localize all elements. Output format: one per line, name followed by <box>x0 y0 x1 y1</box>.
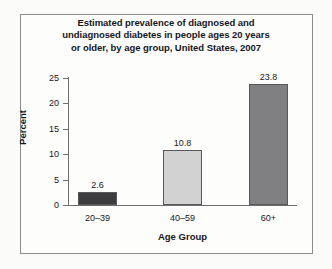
bar-value-40-59: 10.8 <box>156 139 210 148</box>
bar-60-plus[interactable] <box>249 84 288 205</box>
x-tick-label-20-39: 20–39 <box>68 213 128 223</box>
bar-value-60-plus: 23.8 <box>242 73 296 82</box>
y-tick-label-10: 10 <box>35 150 59 159</box>
bar-value-20-39: 2.6 <box>71 181 125 190</box>
chart-title-line-1: Estimated prevalence of diagnosed and <box>20 17 312 29</box>
x-axis-label: Age Group <box>68 231 297 242</box>
chart-title-line-3: or older, by age group, United States, 2… <box>20 42 312 54</box>
y-tick-label-0: 0 <box>35 201 59 210</box>
y-tick-mark-0 <box>63 205 68 206</box>
y-tick-mark-25 <box>63 78 68 79</box>
chart-figure: Estimated prevalence of diagnosed and un… <box>0 0 332 269</box>
y-axis-label: Percent <box>17 98 28 158</box>
x-tick-label-60-plus: 60+ <box>239 213 299 223</box>
y-tick-mark-10 <box>63 154 68 155</box>
y-tick-mark-15 <box>63 129 68 130</box>
bar-20-39[interactable] <box>78 192 117 205</box>
bar-40-59[interactable] <box>163 150 202 205</box>
y-tick-label-15: 15 <box>35 125 59 134</box>
y-tick-mark-5 <box>63 180 68 181</box>
chart-title: Estimated prevalence of diagnosed and un… <box>20 17 312 54</box>
y-tick-mark-20 <box>63 103 68 104</box>
chart-title-line-2: undiagnosed diabetes in people ages 20 y… <box>20 29 312 41</box>
y-tick-label-5: 5 <box>35 176 59 185</box>
x-axis-line <box>68 205 297 206</box>
y-tick-label-25: 25 <box>35 74 59 83</box>
x-tick-label-40-59: 40–59 <box>153 213 213 223</box>
y-tick-label-20: 20 <box>35 99 59 108</box>
y-axis-line <box>68 77 69 206</box>
